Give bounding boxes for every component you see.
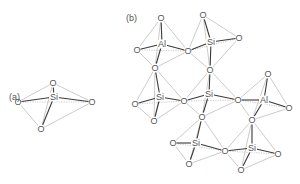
oxygen-atom: O bbox=[184, 46, 191, 56]
atom-label: O bbox=[131, 99, 138, 109]
atom-label: O bbox=[157, 13, 164, 23]
atom-label: O bbox=[235, 33, 242, 43]
tetrahedron-edge bbox=[41, 83, 53, 129]
silicon-atom: Si bbox=[206, 37, 216, 47]
atoms: OOOOSiOOOOAlOOOSiOOOSiOOSiOOOAlOOOSiOOSi bbox=[14, 10, 292, 175]
oxygen-atom: O bbox=[237, 165, 244, 175]
oxygen-atom: O bbox=[133, 45, 140, 55]
atom-label: O bbox=[234, 95, 241, 105]
atom-label: O bbox=[199, 10, 206, 20]
oxygen-atom: O bbox=[199, 10, 206, 20]
tetrahedron-edge bbox=[241, 154, 278, 170]
oxygen-atom: O bbox=[221, 146, 228, 156]
oxygen-atom: O bbox=[157, 13, 164, 23]
oxygen-atom: O bbox=[198, 112, 205, 122]
atom-label: O bbox=[37, 124, 44, 134]
tetrahedron-edge bbox=[155, 51, 188, 68]
silicon-atom: Si bbox=[155, 92, 165, 102]
oxygen-atom: O bbox=[131, 99, 138, 109]
atom-label: Al bbox=[158, 39, 166, 49]
silicon-atom: Si bbox=[191, 138, 201, 148]
atom-label: O bbox=[274, 149, 281, 159]
atom-label: Si bbox=[205, 89, 213, 99]
oxygen-atom: O bbox=[88, 97, 95, 107]
atom-label: O bbox=[88, 97, 95, 107]
oxygen-atom: O bbox=[151, 63, 158, 73]
oxygen-atom: O bbox=[248, 115, 255, 125]
oxygen-atom: O bbox=[49, 78, 56, 88]
atom-label: O bbox=[198, 112, 205, 122]
atom-label: O bbox=[185, 159, 192, 169]
aluminum-atom: Al bbox=[157, 39, 167, 49]
atom-label: O bbox=[264, 69, 271, 79]
panel-labels: (a) (b) bbox=[9, 13, 137, 102]
silicon-atom: Si bbox=[49, 92, 59, 102]
atom-label: O bbox=[169, 138, 176, 148]
oxygen-atom: O bbox=[274, 149, 281, 159]
oxygen-atom: O bbox=[169, 138, 176, 148]
atom-label: O bbox=[221, 146, 228, 156]
panel-label-b: (b) bbox=[126, 13, 137, 23]
tetrahedron-edge bbox=[202, 100, 238, 117]
tetrahedron-edge bbox=[189, 151, 225, 164]
atom-label: O bbox=[285, 103, 292, 113]
atom-label: O bbox=[184, 46, 191, 56]
aluminum-atom: Al bbox=[259, 95, 269, 105]
atom-label: Al bbox=[260, 95, 268, 105]
atom-label: O bbox=[180, 96, 187, 106]
tetrahedron-edge bbox=[41, 102, 92, 129]
oxygen-atom: O bbox=[235, 33, 242, 43]
atom-label: O bbox=[151, 63, 158, 73]
oxygen-atom: O bbox=[150, 116, 157, 126]
oxygen-atom: O bbox=[180, 96, 187, 106]
atom-label: O bbox=[206, 65, 213, 75]
tetrahedron-hidden-edge bbox=[184, 100, 238, 101]
atom-label: O bbox=[150, 116, 157, 126]
atom-label: O bbox=[248, 115, 255, 125]
oxygen-atom: O bbox=[185, 159, 192, 169]
tetrahedron-hidden-edge bbox=[137, 50, 188, 51]
panel-label-a: (a) bbox=[9, 92, 20, 102]
atom-label: O bbox=[133, 45, 140, 55]
silicon-atom: Si bbox=[204, 89, 214, 99]
oxygen-atom: O bbox=[206, 65, 213, 75]
tetrahedron-edge bbox=[154, 68, 155, 121]
silicate-tetrahedra-diagram: OOOOSiOOOOAlOOOSiOOOSiOOSiOOOAlOOOSiOOSi… bbox=[0, 0, 300, 184]
atom-label: O bbox=[237, 165, 244, 175]
oxygen-atom: O bbox=[285, 103, 292, 113]
atom-label: O bbox=[49, 78, 56, 88]
oxygen-atom: O bbox=[37, 124, 44, 134]
atom-label: Si bbox=[156, 92, 164, 102]
oxygen-atom: O bbox=[264, 69, 271, 79]
oxygen-atom: O bbox=[234, 95, 241, 105]
silicon-atom: Si bbox=[247, 143, 257, 153]
atom-label: Si bbox=[192, 138, 200, 148]
atom-label: Si bbox=[207, 37, 215, 47]
atom-label: Si bbox=[50, 92, 58, 102]
atom-label: Si bbox=[248, 143, 256, 153]
